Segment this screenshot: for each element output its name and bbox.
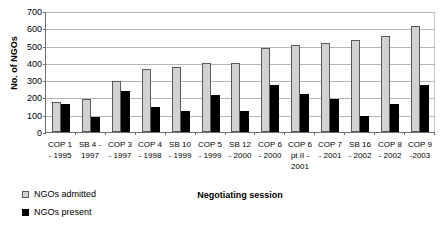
- legend-item-present: NGOs present: [22, 207, 96, 218]
- y-axis-tick-label: 0: [8, 129, 42, 138]
- x-axis-tick-mark: [105, 132, 106, 135]
- bar-group: [76, 12, 106, 132]
- y-axis-tick-label: 600: [8, 25, 42, 34]
- bar-ngos-admitted: [381, 36, 390, 132]
- x-axis-tick-label-line: 1997: [75, 150, 105, 161]
- x-axis-tick-mark: [165, 132, 166, 135]
- x-axis-tick-label: COP 3- 1997: [105, 139, 135, 179]
- legend-item-admitted: NGOs admitted: [22, 189, 96, 200]
- bar-ngos-admitted: [411, 26, 420, 132]
- x-axis-tick-label: COP 8- 2002: [375, 139, 405, 179]
- x-axis-tick-mark: [404, 132, 405, 135]
- bar-ngos-admitted: [261, 48, 270, 132]
- bar-ngos-admitted: [231, 63, 240, 132]
- x-axis-tick-label: SB 4 -1997: [75, 139, 105, 179]
- x-axis-tick-mark: [135, 132, 136, 135]
- bar-ngos-admitted: [202, 63, 211, 132]
- x-axis-tick-label-line: COP 4: [135, 139, 165, 150]
- x-axis-tick-mark: [254, 132, 255, 135]
- bar-ngos-admitted: [52, 102, 61, 133]
- bar-ngos-present: [240, 111, 249, 132]
- x-axis-tick-mark: [374, 132, 375, 135]
- x-axis-tick-mark: [225, 132, 226, 135]
- bar-group: [46, 12, 76, 132]
- bar-group: [226, 12, 256, 132]
- x-axis-tick-label-line: - 1999: [195, 150, 225, 161]
- x-axis-tick-label-line: - 1995: [45, 150, 75, 161]
- x-axis-tick-label: COP 6- 2000: [255, 139, 285, 179]
- bar-ngos-present: [181, 111, 190, 132]
- x-axis-tick-label-line: SB 16: [345, 139, 375, 150]
- bar-chart: No. of NGOs 0100200300400500600700 COP 1…: [0, 0, 447, 232]
- bar-ngos-present: [151, 107, 160, 132]
- y-axis-tick-label: 700: [8, 8, 42, 17]
- x-axis-tick-mark: [314, 132, 315, 135]
- bar-ngos-admitted: [351, 40, 360, 132]
- bar-ngos-admitted: [142, 69, 151, 132]
- legend-label-admitted: NGOs admitted: [34, 189, 96, 200]
- x-axis-tick-mark: [434, 132, 435, 135]
- x-axis-tick-label-line: - 1997: [105, 150, 135, 161]
- bar-ngos-present: [390, 104, 399, 132]
- legend-label-present: NGOs present: [34, 207, 92, 218]
- plot-area: 0100200300400500600700: [45, 12, 435, 133]
- x-axis-tick-label-line: COP 6: [255, 139, 285, 150]
- bar-ngos-present: [61, 104, 70, 132]
- x-axis-tick-label: SB 16- 2002: [345, 139, 375, 179]
- x-axis-tick-mark: [284, 132, 285, 135]
- x-axis-tick-label-line: COP 7: [315, 139, 345, 150]
- legend: NGOs admitted NGOs present: [22, 189, 96, 225]
- bar-ngos-admitted: [82, 99, 91, 132]
- x-axis-tick-label-line: - 2002: [375, 150, 405, 161]
- y-axis-tick-label: 200: [8, 94, 42, 103]
- x-axis-tick-label-line: - 2002: [345, 150, 375, 161]
- bar-group: [106, 12, 136, 132]
- bar-group: [255, 12, 285, 132]
- x-axis-tick-label: SB 10- 1999: [165, 139, 195, 179]
- x-axis-tick-label-line: 2001: [285, 161, 315, 172]
- x-axis-tick-label-line: COP 9: [405, 139, 435, 150]
- bar-ngos-present: [121, 91, 130, 132]
- x-axis-tick-label-line: COP 5: [195, 139, 225, 150]
- x-axis-tick-label: COP 6pt II -2001: [285, 139, 315, 179]
- bar-group: [166, 12, 196, 132]
- bar-ngos-present: [270, 85, 279, 132]
- x-axis-tick-label: COP 5- 1999: [195, 139, 225, 179]
- x-axis-tick-label-line: - 2001: [315, 150, 345, 161]
- y-axis-tick-mark: [43, 133, 46, 134]
- bar-ngos-present: [300, 94, 309, 132]
- x-axis-tick-label: SB 12- 2000: [225, 139, 255, 179]
- x-axis-tick-label: COP 7- 2001: [315, 139, 345, 179]
- x-axis-tick-label-line: COP 3: [105, 139, 135, 150]
- bar-group: [196, 12, 226, 132]
- x-axis-tick-label-line: SB 4 -: [75, 139, 105, 150]
- x-axis-tick-label-line: SB 12: [225, 139, 255, 150]
- bar-ngos-present: [330, 99, 339, 132]
- y-axis-tick-label: 500: [8, 43, 42, 52]
- x-axis-tick-mark: [195, 132, 196, 135]
- bar-ngos-present: [211, 95, 220, 132]
- bar-group: [315, 12, 345, 132]
- x-axis-tick-label-line: SB 10: [165, 139, 195, 150]
- bar-group: [375, 12, 405, 132]
- y-axis-tick-label: 100: [8, 112, 42, 121]
- x-axis-tick-labels: COP 1- 1995SB 4 -1997COP 3- 1997COP 4- 1…: [45, 139, 435, 179]
- x-axis-tick-label-line: COP 1: [45, 139, 75, 150]
- x-axis-tick-label-line: - 2000: [255, 150, 285, 161]
- x-axis-tick-label-line: - 1998: [135, 150, 165, 161]
- x-axis-tick-label-line: pt II -: [285, 150, 315, 161]
- bar-ngos-admitted: [112, 81, 121, 132]
- x-axis-tick-label-line: COP 6: [285, 139, 315, 150]
- x-axis-tick-label: COP 4- 1998: [135, 139, 165, 179]
- x-axis-tick-label-line: -2003: [405, 150, 435, 161]
- bar-ngos-present: [91, 117, 100, 132]
- x-axis-tick-label: COP 1- 1995: [45, 139, 75, 179]
- x-axis-tick-mark: [344, 132, 345, 135]
- x-axis-tick-label: COP 9-2003: [405, 139, 435, 179]
- bar-ngos-present: [360, 116, 369, 132]
- bar-group: [136, 12, 166, 132]
- bar-ngos-admitted: [321, 43, 330, 132]
- legend-swatch-present-icon: [22, 209, 29, 216]
- y-axis-tick-label: 300: [8, 77, 42, 86]
- x-axis-tick-label-line: - 2000: [225, 150, 255, 161]
